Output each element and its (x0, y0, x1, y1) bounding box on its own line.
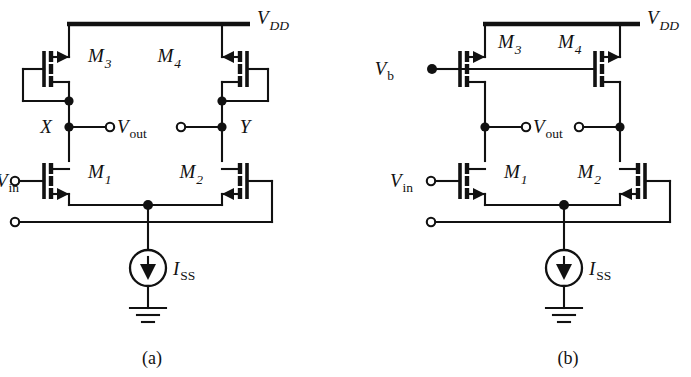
circuit-b (427, 24, 670, 322)
label-vin-a: Vin (0, 170, 19, 195)
label-node-y-a: Y (240, 116, 253, 137)
circuit-schematic-svg: VDD M3 M4 X Y Vout Vin M1 M2 ISS (a) VDD (0, 0, 691, 377)
label-vdd-a: VDD (257, 7, 289, 33)
label-m4-a: M4 (156, 45, 181, 71)
label-iss-a: ISS (172, 258, 195, 283)
caption-b: (b) (558, 348, 579, 369)
current-source-iss-a (130, 200, 166, 322)
vout-minus-terminal-b[interactable] (575, 123, 583, 131)
transistor-m1-a (11, 163, 148, 205)
label-vb-b: Vb (375, 58, 395, 83)
vout-plus-terminal-b[interactable] (522, 123, 530, 131)
label-vdd-b: VDD (647, 7, 679, 33)
label-node-x-a: X (39, 116, 53, 137)
m2-arrow-a (222, 188, 234, 200)
current-source-iss-b (546, 200, 582, 322)
m1-arrow-b (473, 188, 485, 200)
label-vout-a: Vout (117, 116, 147, 141)
m4-arrow-a (222, 51, 234, 63)
label-m1-b: M1 (503, 161, 528, 187)
bias-line-vb (427, 64, 595, 74)
transistor-m1-b (427, 163, 564, 205)
m2-arrow-b (620, 188, 632, 200)
label-iss-b: ISS (588, 258, 611, 283)
vout-minus-terminal-a[interactable] (177, 123, 185, 131)
transistor-m3-b (460, 51, 485, 127)
label-m4-b: M4 (557, 31, 582, 57)
label-m2-b: M2 (576, 161, 601, 187)
m3-arrow-a (57, 51, 69, 63)
vin-minus-terminal-a[interactable] (11, 218, 19, 226)
label-m3-b: M3 (497, 31, 522, 57)
vin-plus-terminal-b[interactable] (427, 177, 435, 185)
m3-arrow-b (473, 51, 485, 63)
m4-diode-node-a (217, 96, 226, 105)
label-vin-b: Vin (390, 170, 413, 195)
label-vout-b: Vout (533, 116, 563, 141)
figure-container: VDD M3 M4 X Y Vout Vin M1 M2 ISS (a) VDD (0, 0, 691, 377)
label-m1-a: M1 (87, 161, 112, 187)
m1-arrow-a (57, 188, 69, 200)
label-m2-a: M2 (178, 161, 203, 187)
vb-node-dot (427, 64, 437, 74)
transistor-m2-b (427, 163, 670, 226)
transistor-m4-b (595, 51, 620, 127)
m3-diode-node-a (64, 96, 73, 105)
caption-a: (a) (142, 348, 162, 369)
vin-minus-terminal-b[interactable] (427, 218, 435, 226)
m4-arrow-b (608, 51, 620, 63)
label-m3-a: M3 (87, 45, 112, 71)
circuit-a (11, 24, 272, 322)
vout-plus-terminal-a[interactable] (106, 123, 114, 131)
